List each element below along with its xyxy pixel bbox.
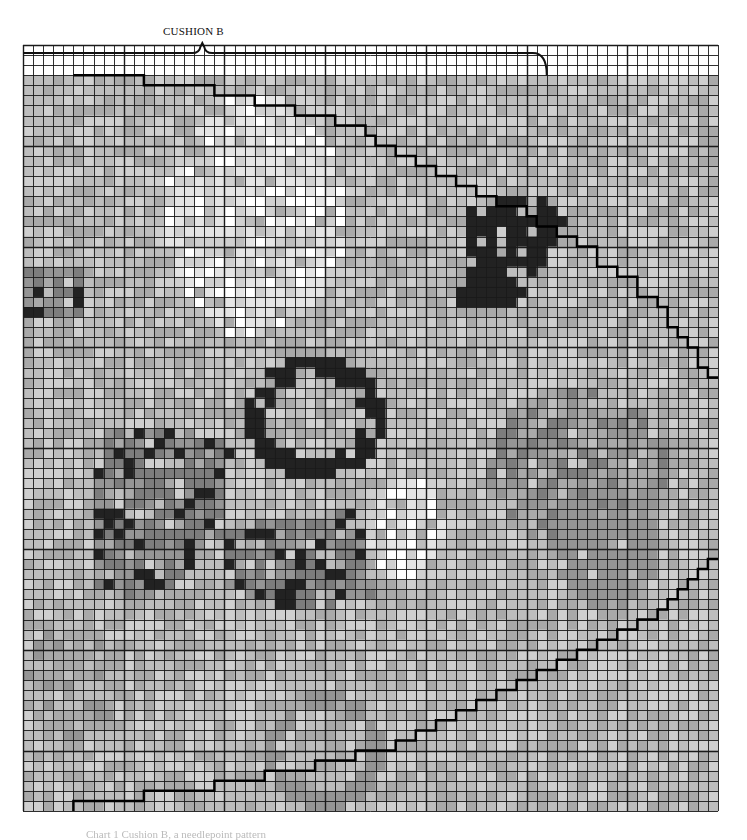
- upper-staircase-outline: [73, 75, 718, 377]
- chart-outlines: [0, 0, 747, 840]
- cushion-brace: [23, 43, 547, 75]
- figure-caption: Chart 1 Cushion B, a needlepoint pattern: [86, 828, 266, 840]
- lower-staircase-outline: [73, 559, 718, 811]
